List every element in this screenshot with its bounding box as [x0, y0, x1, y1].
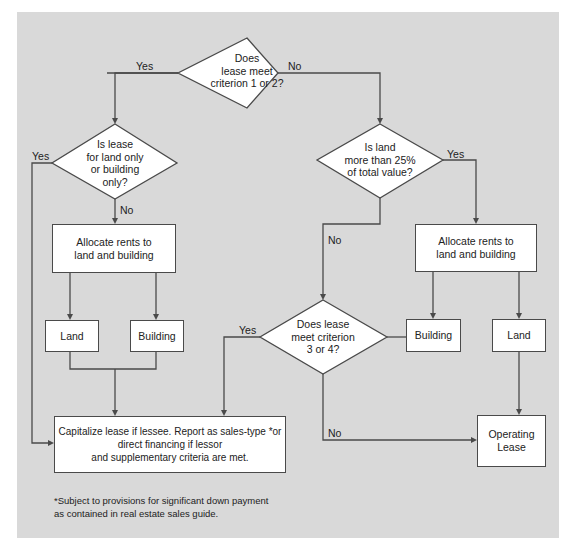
- arrow-head: [100, 118, 106, 124]
- edge-label-lb-yes: Yes: [32, 150, 49, 162]
- edge-lb-yes: [32, 163, 52, 443]
- edge-label-l25-yes: Yes: [447, 148, 464, 160]
- process-allocate-rents-right: Allocate rents to land and building: [415, 224, 537, 272]
- decision-text-criterion-1-2: Does lease meet criterion 1 or 2?: [197, 52, 297, 90]
- decision-text-criterion-3-4: Does lease meet criterion 3 or 4?: [273, 318, 373, 356]
- process-land-left: Land: [45, 320, 99, 352]
- outcome-operating-lease: Operating Lease: [477, 415, 546, 467]
- edge-c34-no: [323, 374, 473, 440]
- arrow-head: [320, 294, 326, 300]
- edge-l25-yes: [443, 160, 476, 220]
- decision-text-land-or-building-only: Is lease for land only or building only?: [70, 138, 160, 188]
- edge-c34-yes: [224, 337, 260, 412]
- arrow-head: [377, 118, 383, 124]
- edge-label-c34-yes: Yes: [239, 324, 256, 336]
- edge-l25-no: [323, 198, 380, 296]
- process-building-left: Building: [130, 320, 184, 352]
- edge-label-lb-no: No: [120, 204, 133, 216]
- outcome-capitalize-lease: Capitalize lease if lessee. Report as sa…: [54, 416, 286, 473]
- process-allocate-rents-left: Allocate rents to land and building: [52, 224, 176, 273]
- process-building-right: Building: [406, 319, 461, 352]
- edge-label-c12-yes: Yes: [136, 60, 153, 72]
- edge-left-merge: [70, 352, 156, 369]
- edge-label-c34-no: No: [328, 427, 341, 439]
- decision-text-land-over-25: Is land more than 25% of total value?: [330, 141, 430, 179]
- edge-label-l25-no: No: [328, 234, 341, 246]
- process-land-right: Land: [492, 319, 546, 352]
- edge-label-c12-no: No: [288, 60, 301, 72]
- footnote: *Subject to provisions for significant d…: [54, 494, 268, 520]
- edge-c12-yes: [103, 73, 178, 120]
